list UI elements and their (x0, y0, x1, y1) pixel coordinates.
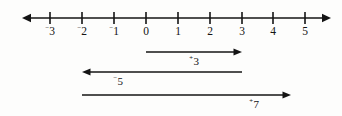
vector-plus-three-label-digits: 3 (194, 55, 200, 67)
vector-plus-seven (82, 91, 291, 98)
vector-plus-three-label: ⁺3 (189, 56, 199, 67)
tick-digits: 1 (175, 25, 181, 37)
tick-digits: 2 (81, 25, 87, 37)
vector-arrows (82, 48, 291, 98)
number-line-figure: ⁻3⁻2⁻1012345 ⁺3⁻5⁺7 (0, 0, 342, 116)
tick-digits: 3 (239, 25, 245, 37)
vector-plus-seven-label-digits: 7 (254, 98, 260, 110)
tick-label-4: 4 (270, 26, 276, 38)
tick-label-0: 0 (143, 26, 149, 38)
tick-digits: 4 (270, 25, 276, 37)
number-line-canvas (0, 0, 342, 116)
tick-label-2: 2 (207, 26, 213, 38)
axis-right-arrowhead (322, 14, 331, 22)
tick-label-5: 5 (302, 26, 308, 38)
tick-label-3: 3 (239, 26, 245, 38)
number-line-axis (22, 14, 331, 22)
tick-label-1: 1 (175, 26, 181, 38)
tick-digits: 5 (302, 25, 308, 37)
tick-label-neg2: ⁻2 (77, 26, 87, 38)
vector-minus-five-label-digits: 5 (118, 75, 124, 87)
tick-digits: 1 (113, 25, 119, 37)
tick-label-neg3: ⁻3 (45, 26, 55, 38)
vector-plus-three-arrowhead (234, 48, 243, 55)
tick-digits: 2 (207, 25, 213, 37)
tick-digits: 0 (143, 25, 149, 37)
axis-left-arrowhead (22, 14, 31, 22)
vector-minus-five-arrowhead (82, 68, 91, 75)
vector-plus-seven-label: ⁺7 (249, 99, 259, 110)
vector-minus-five (82, 68, 242, 75)
vector-minus-five-label: ⁻5 (113, 76, 123, 87)
tick-digits: 3 (49, 25, 55, 37)
vector-plus-seven-arrowhead (283, 91, 292, 98)
tick-label-neg1: ⁻1 (109, 26, 119, 38)
